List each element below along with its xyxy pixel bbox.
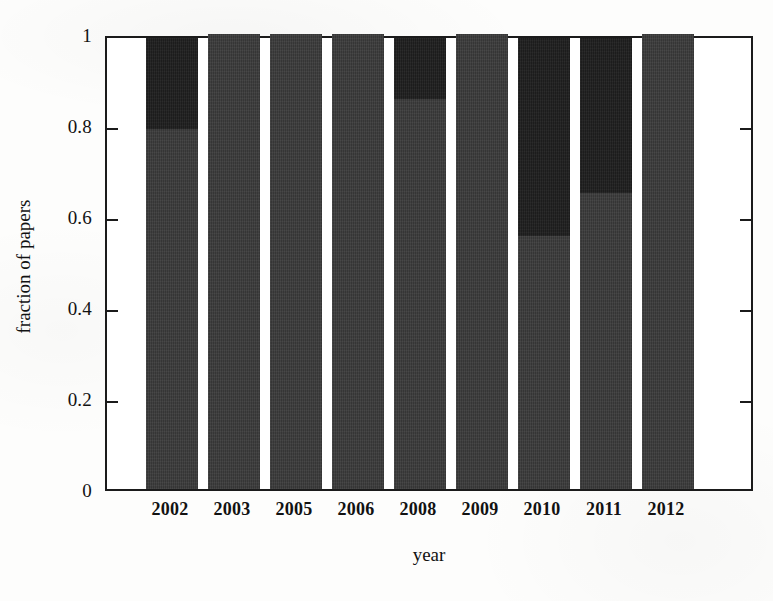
y-tick-label-1: 1 <box>82 26 92 45</box>
x-tick-label-2002: 2002 <box>139 498 201 520</box>
y-tick-label-0.4: 0.4 <box>68 299 92 318</box>
y-tick-left-0.8 <box>107 128 118 130</box>
bar-2002 <box>146 38 198 489</box>
bar-segment-upper-2010 <box>518 38 570 236</box>
x-tick-label-2011: 2011 <box>573 498 635 520</box>
bar-2003 <box>208 38 260 489</box>
bar-2005 <box>270 38 322 489</box>
y-tick-label-0.6: 0.6 <box>68 208 92 227</box>
y-tick-left-0.4 <box>107 310 118 312</box>
x-tick-label-2008: 2008 <box>387 498 449 520</box>
x-tick-label-2012: 2012 <box>635 498 697 520</box>
bar-segment-lower-2010 <box>518 232 570 489</box>
figure-canvas: fraction of papers 00.20.40.60.81 200220… <box>0 0 773 601</box>
x-tick-label-2010: 2010 <box>511 498 573 520</box>
y-tick-left-0.2 <box>107 401 118 403</box>
y-tick-right-0.8 <box>740 128 751 130</box>
x-tick-label-2006: 2006 <box>325 498 387 520</box>
x-tick-label-2005: 2005 <box>263 498 325 520</box>
y-tick-right-0.4 <box>740 310 751 312</box>
bar-segment-lower-2003 <box>208 34 260 489</box>
x-axis-tick-labels: 200220032005200620082009201020112012 <box>105 498 753 524</box>
bar-segment-lower-2009 <box>456 34 508 489</box>
plot-area <box>105 36 753 491</box>
x-tick-label-2009: 2009 <box>449 498 511 520</box>
x-tick-label-2003: 2003 <box>201 498 263 520</box>
bar-segment-upper-2002 <box>146 38 198 129</box>
bar-segment-lower-2005 <box>270 34 322 489</box>
y-tick-label-0: 0 <box>82 481 92 500</box>
bar-2012 <box>642 38 694 489</box>
bar-segment-lower-2006 <box>332 34 384 489</box>
bar-segment-lower-2008 <box>394 95 446 489</box>
bar-2008 <box>394 38 446 489</box>
y-tick-right-0.2 <box>740 401 751 403</box>
x-axis-title: year <box>105 545 753 565</box>
bar-segment-upper-2011 <box>580 38 632 193</box>
bar-segment-upper-2008 <box>394 38 446 99</box>
bars-layer <box>107 38 751 489</box>
bar-2006 <box>332 38 384 489</box>
bar-2009 <box>456 38 508 489</box>
bar-2011 <box>580 38 632 489</box>
y-tick-right-0.6 <box>740 219 751 221</box>
y-tick-label-0.2: 0.2 <box>68 390 92 409</box>
bar-2010 <box>518 38 570 489</box>
bar-segment-lower-2002 <box>146 125 198 489</box>
y-tick-left-0.6 <box>107 219 118 221</box>
bar-segment-lower-2012 <box>642 34 694 489</box>
y-tick-label-0.8: 0.8 <box>68 117 92 136</box>
y-axis-tick-labels: 00.20.40.60.81 <box>30 0 92 601</box>
bar-segment-lower-2011 <box>580 189 632 489</box>
